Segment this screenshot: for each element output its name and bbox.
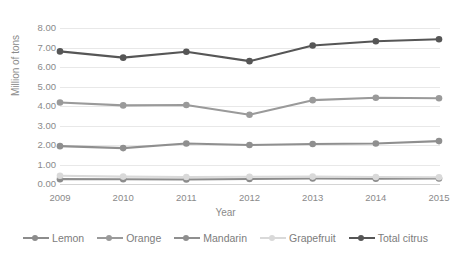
y-axis-tick-label: 6.00 (4, 62, 56, 72)
legend-label: Total citrus (378, 232, 428, 244)
chart-legend: LemonOrangeMandarinGrapefruitTotal citru… (0, 232, 451, 244)
legend-label: Mandarin (203, 232, 247, 244)
y-axis-tick-label: 7.00 (4, 43, 56, 53)
data-point (246, 173, 253, 180)
data-point (309, 97, 316, 104)
legend-label: Grapefruit (289, 232, 336, 244)
legend-dot (183, 235, 189, 241)
data-point (183, 102, 190, 109)
y-axis-tick-label: 8.00 (4, 23, 56, 33)
y-axis-tick-label: 5.00 (4, 82, 56, 92)
data-point (436, 174, 443, 181)
y-axis-tick-label: 4.00 (4, 101, 56, 111)
data-point (436, 138, 443, 145)
y-axis-tick-label: 0.00 (4, 179, 56, 189)
x-axis-tick-label: 2015 (411, 192, 451, 203)
x-axis-tick-label: 2009 (32, 192, 88, 203)
y-axis-tick-label: 3.00 (4, 121, 56, 131)
data-point (57, 99, 64, 106)
legend-marker-lemon (23, 233, 49, 243)
line-chart: Million of tons 8.007.006.005.004.003.00… (0, 0, 451, 259)
data-point (120, 145, 127, 152)
x-axis-tick-label: 2010 (95, 192, 151, 203)
data-point (436, 95, 443, 102)
legend-dot (106, 235, 112, 241)
legend-dot (269, 235, 275, 241)
data-point (183, 140, 190, 147)
legend-marker-grapefruit (260, 233, 286, 243)
x-axis-tick-label: 2013 (285, 192, 341, 203)
legend-marker-orange (97, 233, 123, 243)
series-mandarin (57, 138, 443, 152)
legend-dot (358, 235, 364, 241)
legend-marker-mandarin (174, 233, 200, 243)
series-total-citrus (57, 36, 443, 64)
legend-item-orange[interactable]: Orange (97, 232, 161, 244)
x-axis-line (60, 184, 440, 185)
y-axis-tick-label: 2.00 (4, 140, 56, 150)
legend-label: Lemon (52, 232, 84, 244)
data-point (183, 174, 190, 181)
legend-dot (32, 235, 38, 241)
data-point (246, 58, 253, 65)
data-point (373, 140, 380, 147)
data-point (309, 173, 316, 180)
legend-item-mandarin[interactable]: Mandarin (174, 232, 247, 244)
legend-label: Orange (126, 232, 161, 244)
y-axis-tick-label: 1.00 (4, 160, 56, 170)
x-axis-tick-label: 2012 (222, 192, 278, 203)
data-point (246, 142, 253, 149)
data-point (309, 141, 316, 148)
data-point (120, 54, 127, 61)
data-point (120, 173, 127, 180)
data-point (57, 143, 64, 150)
data-point (120, 102, 127, 109)
y-axis-tick-labels: 8.007.006.005.004.003.002.001.000.00 (0, 0, 56, 184)
legend-item-lemon[interactable]: Lemon (23, 232, 84, 244)
data-point (309, 42, 316, 49)
data-point (246, 111, 253, 118)
data-point (373, 38, 380, 45)
x-axis-tick-label: 2011 (158, 192, 214, 203)
data-point (436, 36, 443, 43)
data-point (57, 173, 64, 180)
data-point (183, 48, 190, 55)
legend-item-grapefruit[interactable]: Grapefruit (260, 232, 336, 244)
data-point (373, 95, 380, 102)
data-point (373, 174, 380, 181)
series-orange (57, 95, 443, 119)
data-point (57, 48, 64, 55)
x-axis-title: Year (0, 207, 451, 218)
plot-area (60, 28, 440, 184)
legend-marker-total-citrus (349, 233, 375, 243)
legend-item-total-citrus[interactable]: Total citrus (349, 232, 428, 244)
x-axis-tick-label: 2014 (348, 192, 404, 203)
series-layer (60, 28, 440, 184)
